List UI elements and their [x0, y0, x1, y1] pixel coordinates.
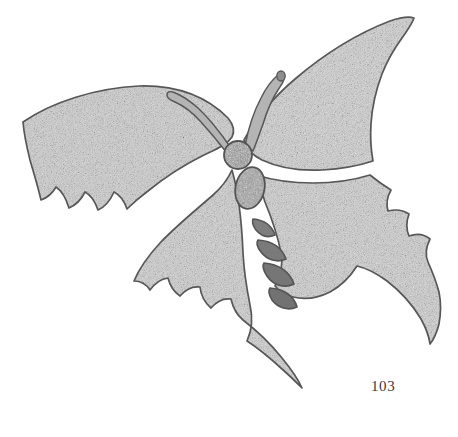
plate-number: 103: [371, 379, 395, 394]
head: [224, 141, 252, 169]
plate-canvas: 103: [0, 0, 458, 437]
left-forewing: [23, 86, 233, 210]
butterfly-illustration: [0, 0, 458, 437]
